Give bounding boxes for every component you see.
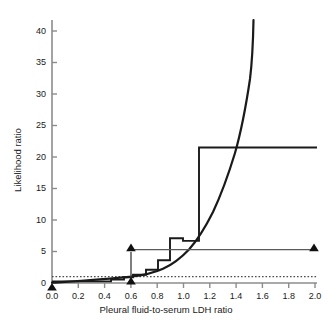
y-tick-label: 25 (22, 121, 46, 130)
x-tick-label: 2.0 (301, 292, 329, 301)
y-axis-title: Likelihood ratio (13, 128, 23, 192)
y-tick-label: 10 (22, 216, 46, 225)
x-tick-label: 0.4 (91, 292, 119, 301)
x-axis-title-text: Pleural fluid-to-serum LDH ratio (99, 305, 232, 315)
y-tick-label: 35 (22, 58, 46, 67)
stepwise-likelihood-ratio-line (52, 148, 317, 282)
plot-area (0, 0, 332, 321)
y-tick-label: 0 (22, 279, 46, 288)
x-tick-label: 1.0 (170, 292, 198, 301)
triangle-up-icon (309, 244, 319, 252)
x-tick-label: 0.6 (117, 292, 145, 301)
x-tick-label: 1.6 (248, 292, 276, 301)
x-tick-label: 0.0 (38, 292, 66, 301)
smooth-likelihood-ratio-curve (52, 20, 254, 283)
x-axis-title: Pleural fluid-to-serum LDH ratio (0, 305, 332, 315)
y-tick-label: 40 (22, 27, 46, 36)
likelihood-ratio-chart: 0 5 10 15 20 25 30 35 40 0.0 0.2 0.4 0.6… (0, 0, 332, 321)
y-tick-label: 15 (22, 184, 46, 193)
x-tick-label: 0.2 (64, 292, 92, 301)
x-tick-label: 0.8 (143, 292, 171, 301)
x-tick-label: 1.4 (222, 292, 250, 301)
x-tick-label: 1.2 (196, 292, 224, 301)
triangle-up-icon (47, 283, 57, 291)
y-tick-label: 30 (22, 90, 46, 99)
x-tick-label: 1.8 (275, 292, 303, 301)
y-tick-label: 20 (22, 153, 46, 162)
triangle-up-icon (126, 244, 136, 252)
y-tick-label: 5 (22, 247, 46, 256)
